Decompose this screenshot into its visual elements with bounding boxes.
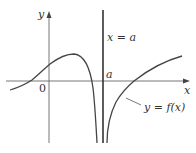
x-axis-label: x (184, 84, 191, 97)
y-axis-label: y (37, 8, 45, 21)
function-graph: y 0 x x = a a y = f(x) (0, 0, 196, 153)
origin-label: 0 (39, 82, 46, 95)
y-axis-arrow-icon (47, 11, 52, 18)
curve-left-branch (10, 54, 97, 143)
x-axis-arrow-icon (183, 79, 190, 84)
curve-label-leader (126, 98, 141, 105)
asymptote-label: x = a (107, 31, 136, 44)
curve-label: y = f(x) (143, 101, 185, 114)
curve-right-branch (107, 56, 182, 143)
a-tick-label: a (106, 68, 113, 81)
